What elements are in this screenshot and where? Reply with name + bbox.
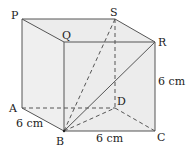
label-A: A [8, 102, 18, 115]
measurement-rc: 6 cm [158, 75, 186, 88]
label-P: P [11, 9, 19, 22]
label-C: C [157, 131, 165, 144]
label-B: B [56, 135, 64, 148]
vertex-B-dot [63, 130, 65, 132]
measurement-ab: 6 cm [16, 117, 44, 130]
cuboid-diagram: P S Q R A D B C 6 cm 6 cm 6 cm [0, 0, 192, 152]
label-S: S [110, 6, 118, 19]
label-Q: Q [62, 29, 71, 42]
label-D: D [117, 95, 126, 108]
measurement-bc: 6 cm [96, 132, 124, 145]
label-R: R [158, 36, 167, 49]
